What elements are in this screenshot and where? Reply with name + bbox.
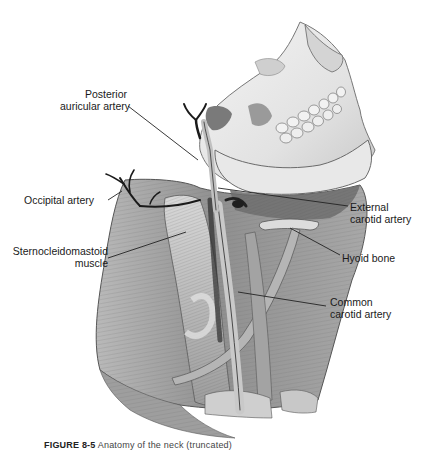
label-hyoid-bone: Hyoid bone bbox=[342, 252, 395, 264]
figure-number: FIGURE 8-5 bbox=[44, 440, 96, 450]
label-line: auricular artery bbox=[40, 100, 130, 112]
label-line: carotid artery bbox=[350, 213, 411, 225]
label-occipital-artery: Occipital artery bbox=[24, 194, 94, 206]
label-line: Sternocleidomastoid bbox=[8, 245, 108, 257]
label-sternocleidomastoid-muscle: Sternocleidomastoid muscle bbox=[8, 245, 108, 269]
label-line: Hyoid bone bbox=[342, 252, 395, 264]
label-external-carotid-artery: External carotid artery bbox=[350, 201, 411, 225]
label-common-carotid-artery: Common carotid artery bbox=[330, 296, 391, 320]
label-posterior-auricular-artery-line2: auricular artery bbox=[40, 100, 130, 112]
leader-posterior-auricular bbox=[128, 106, 198, 160]
label-line: External bbox=[350, 201, 411, 213]
figure-caption: FIGURE 8-5 Anatomy of the neck (truncate… bbox=[44, 440, 232, 450]
caption-text: Anatomy of the neck (truncated) bbox=[98, 440, 232, 450]
label-line: Posterior bbox=[57, 88, 127, 100]
label-line: muscle bbox=[8, 257, 108, 269]
label-line: Occipital artery bbox=[24, 194, 94, 206]
label-line: carotid artery bbox=[330, 308, 391, 320]
skull bbox=[200, 22, 375, 194]
label-posterior-auricular-artery: Posterior bbox=[57, 88, 127, 100]
label-line: Common bbox=[330, 296, 391, 308]
